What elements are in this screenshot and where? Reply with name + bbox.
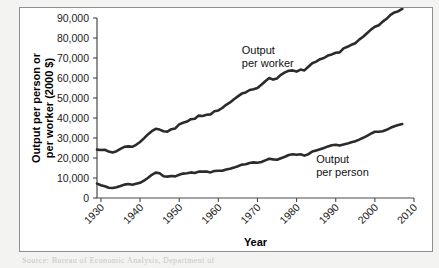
x-tick-label: 1970 [238, 201, 263, 226]
series-annotation-line2: per person [316, 166, 369, 178]
y-tick-label: 0 [83, 192, 89, 204]
y-tick-label: 70,000 [57, 52, 89, 64]
x-tick-label: 2000 [355, 201, 380, 226]
y-tick-label: 30,000 [57, 132, 89, 144]
x-axis-ticks: 193019401950196019701980199020002010 [81, 198, 419, 226]
figure-caption: Source: Bureau of Economic Analysis, Dep… [22, 256, 422, 267]
x-tick-label: 1960 [199, 201, 224, 226]
y-axis-title-line1: Output per person or [30, 52, 42, 163]
x-tick-label: 1940 [120, 201, 145, 226]
data-line-output-per-person [97, 124, 402, 188]
y-axis-ticks: 010,00020,00030,00040,00050,00060,00070,… [57, 12, 97, 204]
x-tick-label: 1930 [81, 201, 106, 226]
x-axis-title: Year [244, 236, 268, 248]
series-annotation-line1: Output [242, 44, 275, 56]
series-annotations: Outputper workerOutputper person [242, 44, 369, 178]
y-tick-label: 50,000 [57, 92, 89, 104]
data-series-group [97, 9, 402, 188]
y-tick-label: 90,000 [57, 12, 89, 24]
series-annotation-line1: Output [316, 153, 349, 165]
x-tick-label: 1950 [160, 201, 185, 226]
y-tick-label: 60,000 [57, 72, 89, 84]
y-axis-title-line2: per worker (2000 $) [43, 58, 55, 159]
x-tick-label: 1980 [277, 201, 302, 226]
x-tick-label: 2010 [394, 201, 419, 226]
line-chart: 010,00020,00030,00040,00050,00060,00070,… [20, 8, 431, 250]
y-tick-label: 80,000 [57, 32, 89, 44]
y-tick-label: 40,000 [57, 112, 89, 124]
figure-panel: 010,00020,00030,00040,00050,00060,00070,… [19, 7, 433, 252]
x-tick-label: 1990 [316, 201, 341, 226]
series-annotation-line2: per worker [242, 57, 294, 69]
data-line-output-per-worker [97, 9, 402, 153]
y-tick-label: 20,000 [57, 152, 89, 164]
y-tick-label: 10,000 [57, 172, 89, 184]
